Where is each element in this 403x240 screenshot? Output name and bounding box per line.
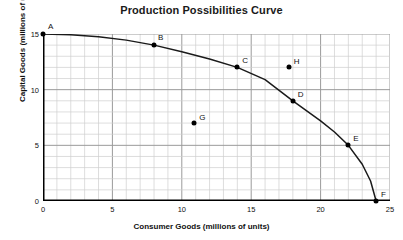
y-axis-label: Capital Goods (millions of units) <box>18 0 27 121</box>
y-axis-tick-label: 15 <box>21 30 39 39</box>
y-axis-tick-label: 5 <box>21 141 39 150</box>
chart-container: Production Possibilities Curve Capital G… <box>0 0 403 240</box>
plot-svg <box>43 34 390 201</box>
x-axis-label: Consumer Goods (millions of units) <box>0 222 403 231</box>
data-point-label-d: D <box>298 90 304 99</box>
x-axis-tick-label: 5 <box>110 205 114 214</box>
data-point-g <box>192 121 197 126</box>
x-axis-tick-label: 15 <box>247 205 255 214</box>
data-point-e <box>346 143 351 148</box>
x-axis-tick-label: 0 <box>41 205 45 214</box>
data-point-c <box>235 65 240 70</box>
data-point-a <box>41 32 46 37</box>
y-axis-tick-label: 10 <box>21 85 39 94</box>
data-point-label-g: G <box>199 113 205 122</box>
data-point-b <box>152 43 157 48</box>
data-point-h <box>286 65 291 70</box>
data-point-label-h: H <box>294 57 300 66</box>
data-point-label-f: F <box>381 190 386 199</box>
x-axis-tick-label: 10 <box>178 205 186 214</box>
plot-area <box>43 34 390 201</box>
y-axis-tick-label: 0 <box>21 197 39 206</box>
data-point-d <box>290 98 295 103</box>
data-point-label-a: A <box>48 22 53 31</box>
chart-title: Production Possibilities Curve <box>0 4 403 16</box>
data-point-label-b: B <box>158 33 163 42</box>
data-point-label-c: C <box>242 56 248 65</box>
data-point-label-e: E <box>353 134 358 143</box>
x-axis-tick-label: 20 <box>316 205 324 214</box>
x-axis-tick-label: 25 <box>386 205 394 214</box>
data-point-f <box>374 199 379 204</box>
